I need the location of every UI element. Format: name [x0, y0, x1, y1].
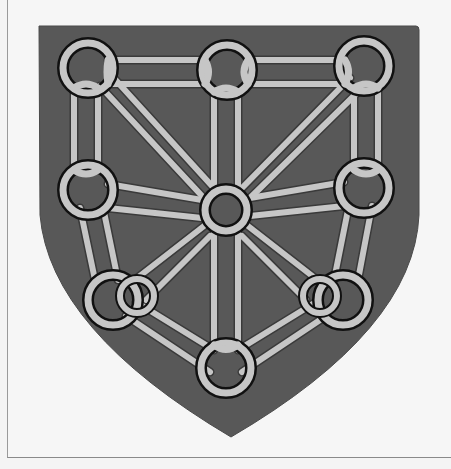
navarre-shield-emblem: [0, 0, 451, 469]
